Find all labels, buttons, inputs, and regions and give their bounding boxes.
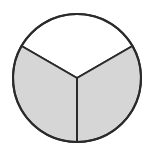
fraction-circle-diagram	[0, 0, 153, 144]
